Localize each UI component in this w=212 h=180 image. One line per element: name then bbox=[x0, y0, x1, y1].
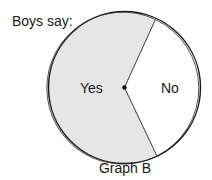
pie-chart: Yes No bbox=[0, 0, 212, 180]
label-yes: Yes bbox=[80, 80, 103, 96]
label-no: No bbox=[161, 80, 179, 96]
center-dot bbox=[122, 85, 126, 89]
chart-caption: Graph B bbox=[0, 160, 212, 176]
